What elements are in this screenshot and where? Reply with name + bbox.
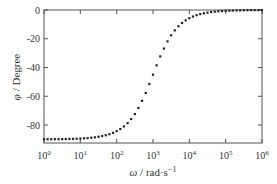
data-point: [94, 136, 96, 138]
data-point: [185, 19, 187, 21]
data-point: [47, 138, 49, 140]
data-point: [199, 13, 201, 15]
data-point: [181, 22, 183, 24]
x-axis-unit: / rad·s: [137, 166, 168, 178]
data-point: [257, 9, 259, 11]
data-point: [228, 10, 230, 12]
data-point: [243, 9, 245, 11]
data-point: [188, 17, 190, 19]
data-point: [134, 113, 136, 115]
x-tick-label: 106: [255, 149, 269, 161]
x-tick-label: 103: [146, 149, 160, 161]
y-tick-label: -60: [27, 91, 40, 102]
data-point: [254, 9, 256, 11]
data-point: [225, 10, 227, 12]
data-point: [177, 25, 179, 27]
data-point: [163, 47, 165, 49]
data-point: [156, 64, 158, 66]
x-tick-label: 101: [74, 149, 88, 161]
data-point: [119, 128, 121, 130]
data-point: [87, 137, 89, 139]
data-point: [206, 12, 208, 14]
y-axis-label: φ / Degree: [10, 54, 22, 101]
data-point: [145, 92, 147, 94]
y-axis-unit: / Degree: [10, 54, 22, 94]
data-point: [214, 11, 216, 13]
x-tick-label: 102: [110, 149, 124, 161]
data-point: [203, 12, 205, 14]
data-point: [90, 137, 92, 139]
data-point: [196, 14, 198, 16]
y-axis-ticks: 0-20-40-60-80: [27, 5, 262, 131]
data-point: [246, 9, 248, 11]
data-point: [43, 138, 45, 140]
data-point: [250, 9, 252, 11]
data-point: [116, 130, 118, 132]
data-point: [239, 9, 241, 11]
data-point: [170, 34, 172, 36]
data-point: [123, 125, 125, 127]
data-point: [72, 138, 74, 140]
data-point: [97, 136, 99, 138]
data-point: [61, 138, 63, 140]
data-point: [57, 138, 59, 140]
y-tick-label: -20: [27, 33, 40, 44]
phase-chart: 100101102103104105106 0-20-40-60-80 φ / …: [0, 0, 277, 184]
x-tick-label: 104: [183, 149, 197, 161]
data-point: [174, 29, 176, 31]
data-point: [50, 138, 52, 140]
data-point: [221, 10, 223, 12]
data-point: [159, 55, 161, 57]
data-point: [105, 134, 107, 136]
y-tick-label: -80: [27, 120, 40, 131]
data-point: [217, 10, 219, 12]
data-point: [101, 135, 103, 137]
data-point: [130, 118, 132, 120]
data-point: [68, 138, 70, 140]
x-tick-label: 100: [37, 149, 51, 161]
data-point: [65, 138, 67, 140]
y-tick-label: 0: [35, 5, 40, 16]
data-point: [210, 11, 212, 13]
data-point: [126, 122, 128, 124]
data-point: [141, 100, 143, 102]
data-point: [192, 15, 194, 17]
data-point: [232, 9, 234, 11]
data-point: [261, 9, 263, 11]
data-point: [76, 138, 78, 140]
data-point: [54, 138, 56, 140]
x-axis-label: ω / rad·s−1: [130, 165, 177, 178]
y-tick-label: -40: [27, 62, 40, 73]
data-point: [235, 9, 237, 11]
data-point: [79, 137, 81, 139]
data-point: [148, 83, 150, 85]
data-point: [137, 107, 139, 109]
data-point: [83, 137, 85, 139]
data-points: [43, 9, 263, 140]
data-point: [166, 40, 168, 42]
data-point: [112, 132, 114, 134]
x-tick-label: 105: [219, 149, 233, 161]
plot-frame: [44, 10, 262, 143]
data-point: [108, 133, 110, 135]
data-point: [152, 74, 154, 76]
x-axis-exponent: −1: [168, 165, 177, 174]
